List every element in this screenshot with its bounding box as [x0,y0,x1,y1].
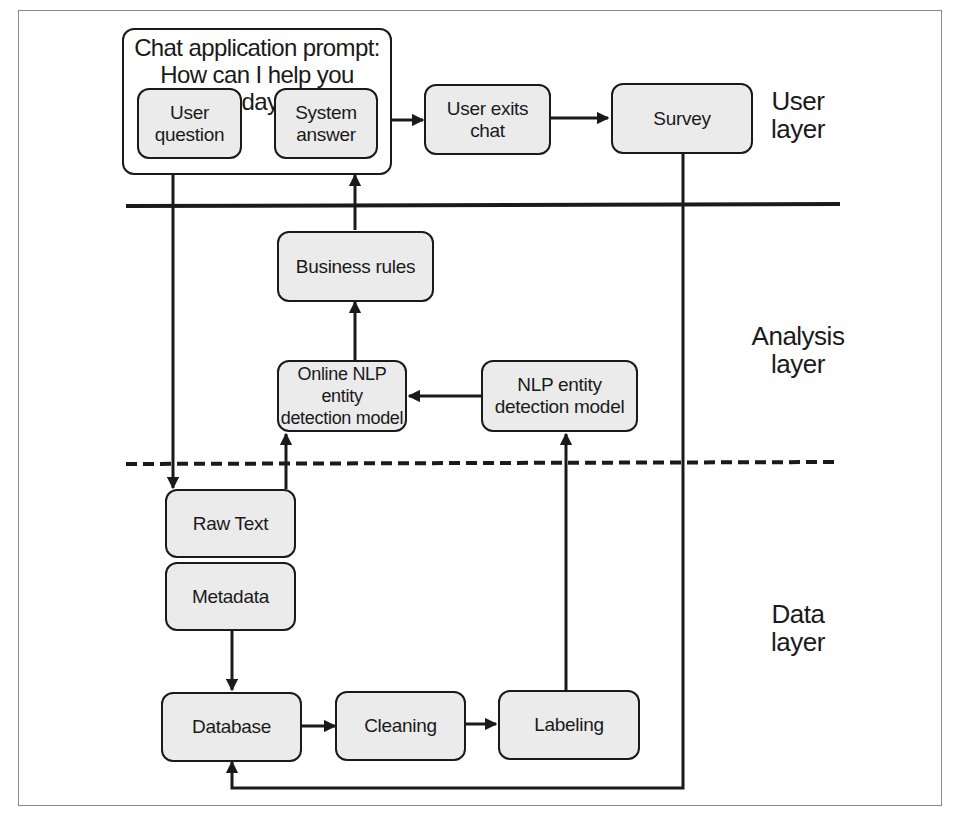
user-exits-chat-node: User exits chat [424,84,551,155]
user-analysis-separator [126,204,840,206]
user-question-node: User question [137,88,242,159]
database-node: Database [161,692,302,762]
labeling-node: Labeling [498,690,640,760]
business-rules-node: Business rules [277,231,434,302]
raw-text-node: Raw Text [165,489,296,558]
cleaning-node: Cleaning [335,691,466,761]
survey-node: Survey [611,83,753,154]
online-nlp-model-node: Online NLP entity detection model [277,360,407,432]
nlp-model-node: NLP entity detection model [481,360,638,432]
analysis-data-separator [126,462,840,464]
user-layer-label: User layer [738,87,858,143]
data-layer-label: Data layer [738,600,858,656]
system-answer-node: System answer [274,88,378,159]
metadata-node: Metadata [165,562,296,631]
analysis-layer-label: Analysis layer [738,322,858,378]
